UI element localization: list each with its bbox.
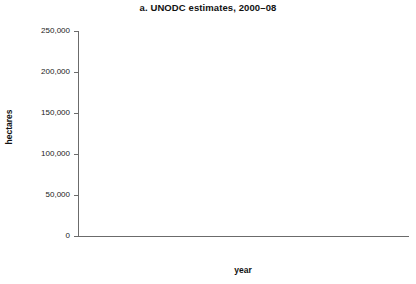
y-axis-tick-label: 50,000 bbox=[8, 190, 70, 200]
y-axis-tick-label-text: 150,000 bbox=[12, 108, 70, 117]
chart-figure: a. UNODC estimates, 2000–08 hectares yea… bbox=[0, 0, 416, 284]
y-axis-tick-label: 200,000 bbox=[8, 67, 70, 77]
y-axis-tick bbox=[74, 236, 78, 237]
x-axis-line bbox=[78, 236, 409, 237]
y-axis-tick-label-text: 250,000 bbox=[12, 26, 70, 35]
x-axis-label: year bbox=[78, 265, 408, 275]
y-axis-tick-label: 150,000 bbox=[8, 108, 70, 118]
bars-layer bbox=[78, 31, 409, 236]
y-axis-tick-label-text: 50,000 bbox=[12, 190, 70, 199]
y-axis-tick-label-text: 200,000 bbox=[12, 67, 70, 76]
y-axis-tick-label-text: 0 bbox=[12, 231, 70, 240]
y-axis-tick-label: 0 bbox=[8, 231, 70, 241]
y-axis-tick-label: 100,000 bbox=[8, 149, 70, 159]
y-axis-tick-label-text: 100,000 bbox=[12, 149, 70, 158]
y-axis-tick-label: 250,000 bbox=[8, 26, 70, 36]
chart-title: a. UNODC estimates, 2000–08 bbox=[0, 2, 416, 13]
